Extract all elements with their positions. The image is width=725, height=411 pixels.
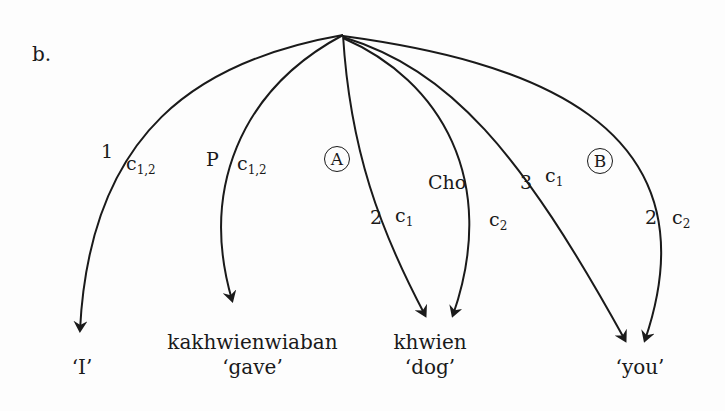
arc-coindex-3: c1: [545, 166, 563, 188]
example-label: b.: [32, 44, 51, 64]
word-I: ‘I’: [62, 355, 102, 380]
circle-label-A: A: [324, 146, 350, 172]
arc-2-to-dog: [343, 35, 425, 315]
arc-coindex-2a: c1: [395, 206, 413, 228]
arc-label-2a: 2: [370, 208, 382, 227]
word-form: kakhwienwiaban: [155, 330, 350, 355]
arc-3-to-you: [343, 37, 625, 340]
word-kakhwienwiaban: kakhwienwiaban ‘gave’: [155, 330, 350, 380]
arc-label-P: P: [206, 150, 219, 169]
word-khwien: khwien ‘dog’: [380, 330, 480, 380]
arc-1-to-I: [80, 35, 343, 330]
word-gloss: ‘gave’: [155, 355, 350, 380]
arc-label-3: 3: [520, 173, 532, 192]
arc-coindex-2b: c2: [672, 208, 690, 230]
arc-label-1: 1: [101, 142, 113, 161]
arc-2-to-you-B: [343, 36, 661, 340]
word-gloss: ‘I’: [62, 355, 102, 380]
circle-label-B: B: [587, 148, 613, 174]
word-form: khwien: [380, 330, 480, 355]
arc-coindex-P: c1,2: [237, 154, 267, 176]
arc-label-2b: 2: [645, 208, 657, 227]
arc-label-Cho: Cho: [428, 173, 466, 192]
arc-coindex-1: c1,2: [126, 154, 156, 176]
word-gloss: ‘dog’: [380, 355, 480, 380]
word-you: ‘you’: [610, 355, 670, 380]
arc-coindex-Cho: c2: [489, 210, 507, 232]
arc-diagram: [0, 0, 725, 411]
word-gloss: ‘you’: [610, 355, 670, 380]
